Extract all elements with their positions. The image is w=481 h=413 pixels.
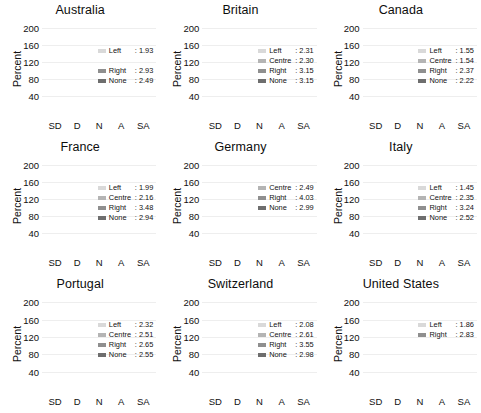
legend-series-value: 3.55 <box>299 340 313 349</box>
legend-series-name: Right <box>109 66 135 75</box>
legend-series-value: 3.24 <box>460 203 474 212</box>
y-axis-tick: 160 <box>23 314 39 325</box>
legend-series-value: 2.93 <box>139 66 153 75</box>
legend-item[interactable] <box>98 56 154 65</box>
chart-panel-switzerland: SwitzerlandPercent4080120160200Left: 2.0… <box>160 274 320 413</box>
legend-swatch-icon <box>98 323 106 327</box>
y-axis-tick: 80 <box>28 211 39 222</box>
legend-series-name: None <box>269 350 295 359</box>
y-axis-tick: 120 <box>23 194 39 205</box>
legend-item[interactable]: Centre: 2.49 <box>258 183 314 192</box>
legend-series-name: Right <box>109 340 135 349</box>
legend-swatch-icon <box>258 69 266 73</box>
legend-series-value: 2.08 <box>299 320 313 329</box>
legend-item[interactable]: Right: 3.24 <box>418 203 474 212</box>
legend-item[interactable]: Left: 2.32 <box>98 320 154 329</box>
y-axis-tick: 120 <box>183 194 199 205</box>
legend-item[interactable]: Right: 2.83 <box>418 330 474 339</box>
legend-swatch-icon <box>418 323 426 327</box>
legend-label: Left: 2.31 <box>269 46 314 55</box>
x-axis-tick: N <box>90 257 108 268</box>
legend-item[interactable]: Centre: 2.35 <box>418 193 474 202</box>
legend-swatch-icon <box>418 69 426 73</box>
legend-series-name: Left <box>269 46 295 55</box>
y-axis-tick: 80 <box>189 349 200 360</box>
legend-item[interactable]: Centre: 2.51 <box>98 330 154 339</box>
chart-panel-britain: BritainPercent4080120160200Left: 2.31Cen… <box>160 0 320 137</box>
legend-swatch-icon <box>258 343 266 347</box>
y-axis-ticks: 4080120160200 <box>160 296 202 389</box>
x-axis-tick: A <box>112 120 130 131</box>
legend-item[interactable]: Right: 2.37 <box>418 66 474 75</box>
legend-series-value: 2.32 <box>139 320 153 329</box>
panel-title: France <box>0 140 160 154</box>
legend-series-value: 2.30 <box>299 56 313 65</box>
x-axis-tick: SD <box>206 257 224 268</box>
legend-swatch-icon <box>258 59 266 63</box>
y-axis-ticks: 4080120160200 <box>321 22 363 113</box>
x-axis-ticks: SDDNASA <box>363 120 477 131</box>
legend-item[interactable]: Left: 1.93 <box>98 46 154 55</box>
legend-swatch-icon <box>98 49 106 53</box>
x-axis-tick: N <box>411 257 429 268</box>
legend-item[interactable]: Right: 2.65 <box>98 340 154 349</box>
legend-label: Right: 2.37 <box>429 66 474 75</box>
legend-item[interactable]: None: 2.99 <box>258 203 314 212</box>
legend-item[interactable]: Left: 2.31 <box>258 46 314 55</box>
legend-swatch-icon <box>98 343 106 347</box>
legend-label: Right: 4.03 <box>269 193 314 202</box>
y-axis-tick: 160 <box>183 40 199 51</box>
legend-swatch-icon <box>418 216 426 220</box>
legend-item[interactable]: Right: 4.03 <box>258 193 314 202</box>
legend-item[interactable]: Left: 2.08 <box>258 320 314 329</box>
legend-item[interactable]: Centre: 2.30 <box>258 56 314 65</box>
legend-item[interactable]: Centre: 2.16 <box>98 193 154 202</box>
legend-item[interactable]: None: 2.98 <box>258 350 314 359</box>
legend-item[interactable]: Centre: 2.61 <box>258 330 314 339</box>
legend-item[interactable]: Right: 3.55 <box>258 340 314 349</box>
x-axis-tick: SA <box>295 257 313 268</box>
y-axis-tick: 200 <box>23 23 39 34</box>
legend-item[interactable]: Right: 2.93 <box>98 66 154 75</box>
legend-label: Right: 2.65 <box>109 340 154 349</box>
legend-item[interactable]: Centre: 1.54 <box>418 56 474 65</box>
legend-item[interactable]: None: 2.52 <box>418 213 474 222</box>
legend-item[interactable]: Left: 1.55 <box>418 46 474 55</box>
x-axis-tick: SA <box>295 120 313 131</box>
legend-label: Left: 1.99 <box>109 183 154 192</box>
y-axis-ticks: 4080120160200 <box>321 296 363 389</box>
legend-series-value: 2.22 <box>460 76 474 85</box>
y-axis-tick: 200 <box>183 23 199 34</box>
chart-panel-united-states: United StatesPercent4080120160200Left: 1… <box>321 274 481 413</box>
legend-item[interactable]: Right: 3.48 <box>98 203 154 212</box>
legend-item[interactable]: None: 2.22 <box>418 76 474 85</box>
legend-item[interactable]: None: 3.15 <box>258 76 314 85</box>
legend-item[interactable]: None: 2.49 <box>98 76 154 85</box>
x-axis-tick: A <box>273 120 291 131</box>
legend-item[interactable]: None: 2.94 <box>98 213 154 222</box>
legend-series-name: Right <box>269 193 295 202</box>
legend-label: Centre: 1.54 <box>429 56 474 65</box>
legend-item[interactable]: None: 2.55 <box>98 350 154 359</box>
y-axis-tick: 200 <box>23 160 39 171</box>
legend-series-value: 2.51 <box>139 330 153 339</box>
y-axis-tick: 120 <box>344 332 360 343</box>
legend-series-value: 2.52 <box>460 213 474 222</box>
legend-series-value: 1.93 <box>139 46 153 55</box>
bar-group <box>363 296 477 389</box>
y-axis-tick: 200 <box>344 160 360 171</box>
legend-item[interactable]: Left: 1.45 <box>418 183 474 192</box>
legend-item[interactable]: Left: 1.86 <box>418 320 474 329</box>
legend-label: Left: 1.45 <box>429 183 474 192</box>
y-axis-tick: 120 <box>183 57 199 68</box>
legend: Left: 1.93Right: 2.93None: 2.49 <box>98 46 154 85</box>
x-axis-tick: SA <box>455 396 473 407</box>
legend-item[interactable]: Left: 1.99 <box>98 183 154 192</box>
legend-series-value: 1.45 <box>460 183 474 192</box>
x-axis-tick: SD <box>46 257 64 268</box>
legend-label: Right: 3.48 <box>109 203 154 212</box>
plot-area: Left: 2.32Centre: 2.51Right: 2.65None: 2… <box>42 296 156 389</box>
legend-item[interactable]: Right: 3.15 <box>258 66 314 75</box>
legend-swatch-icon <box>98 69 106 73</box>
y-axis-tick: 200 <box>344 23 360 34</box>
